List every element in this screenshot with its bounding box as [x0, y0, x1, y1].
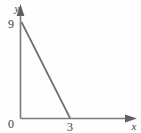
- y-axis-label: y: [14, 2, 20, 14]
- origin-tick-label-0: 0: [8, 117, 14, 131]
- y-tick-label-9: 9: [8, 17, 14, 31]
- x-tick-label-3: 3: [67, 120, 73, 133]
- plot-canvas: y x 9 0 3: [0, 0, 141, 133]
- coordinate-plot-figure: y x 9 0 3: [0, 0, 141, 133]
- x-axis-label: x: [131, 120, 137, 132]
- line-segment-series: [22, 22, 71, 118]
